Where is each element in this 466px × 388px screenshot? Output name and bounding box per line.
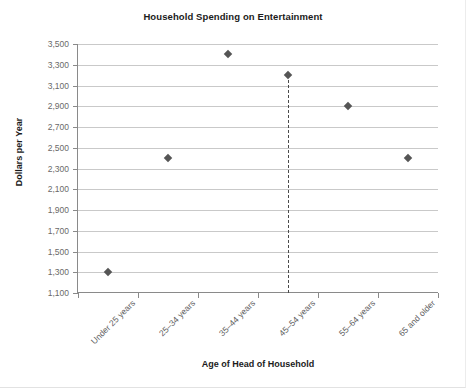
y-tick-mark (73, 106, 78, 107)
data-point[interactable] (404, 154, 412, 162)
y-tick-label: 2,100 (48, 184, 69, 194)
y-tick-mark (73, 231, 78, 232)
y-tick-label: 2,900 (48, 101, 69, 111)
x-category-label: 35–44 years (217, 298, 257, 338)
gridline (78, 189, 438, 190)
gridline (78, 127, 438, 128)
data-point[interactable] (224, 50, 232, 58)
y-tick-label: 3,300 (48, 60, 69, 70)
x-tick-mark (438, 293, 439, 298)
data-point[interactable] (284, 71, 292, 79)
data-point[interactable] (164, 154, 172, 162)
x-category-label: 55–64 years (337, 298, 377, 338)
y-tick-mark (73, 65, 78, 66)
y-tick-mark (73, 189, 78, 190)
x-category-label: 45–54 years (277, 298, 317, 338)
gridline (78, 106, 438, 107)
y-tick-label: 1,100 (48, 288, 69, 298)
y-tick-label: 3,500 (48, 39, 69, 49)
gridline (78, 44, 438, 45)
y-tick-label: 1,500 (48, 247, 69, 257)
y-tick-mark (73, 252, 78, 253)
y-tick-label: 1,300 (48, 267, 69, 277)
y-tick-mark (73, 127, 78, 128)
y-tick-label: 1,900 (48, 205, 69, 215)
gridline (78, 272, 438, 273)
y-tick-label: 3,100 (48, 81, 69, 91)
data-point[interactable] (344, 102, 352, 110)
x-category-label: Under 25 years (89, 298, 137, 346)
y-tick-label: 2,300 (48, 164, 69, 174)
y-tick-label: 2,700 (48, 122, 69, 132)
x-category-label: 65 and older (397, 298, 437, 338)
y-axis-title: Dollars per Year (14, 92, 24, 212)
gridline (78, 252, 438, 253)
annotation-dashed-line (288, 75, 289, 293)
gridline (78, 65, 438, 66)
chart-card: Household Spending on Entertainment Doll… (0, 0, 466, 388)
y-tick-label: 1,700 (48, 226, 69, 236)
x-axis-title: Age of Head of Household (78, 359, 438, 369)
y-tick-mark (73, 44, 78, 45)
gridline (78, 169, 438, 170)
y-tick-label: 2,500 (48, 143, 69, 153)
y-tick-mark (73, 272, 78, 273)
x-category-label: 25–34 years (157, 298, 197, 338)
gridline (78, 86, 438, 87)
plot-area: 3,5003,3003,1002,9002,7002,5002,3002,100… (78, 44, 438, 293)
x-axis-category-labels: Under 25 years25–34 years35–44 years45–5… (78, 298, 438, 358)
data-point[interactable] (104, 268, 112, 276)
y-tick-mark (73, 86, 78, 87)
gridline (78, 148, 438, 149)
chart-title: Household Spending on Entertainment (0, 11, 466, 22)
y-tick-mark (73, 148, 78, 149)
gridline (78, 231, 438, 232)
y-tick-mark (73, 210, 78, 211)
gridline (78, 210, 438, 211)
y-tick-mark (73, 169, 78, 170)
